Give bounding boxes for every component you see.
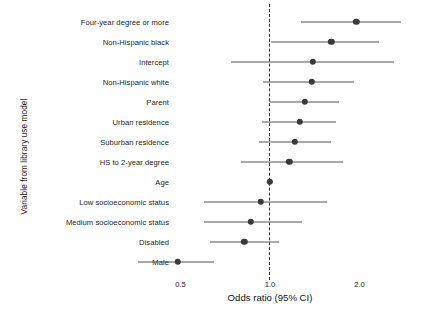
- confidence-interval-line: [204, 202, 327, 203]
- odds-ratio-point: [241, 239, 247, 245]
- forest-plot: Variable from library use model Four-yea…: [0, 0, 437, 317]
- odds-ratio-point: [286, 159, 292, 165]
- odds-ratio-point: [257, 199, 263, 205]
- odds-ratio-point: [308, 79, 314, 85]
- x-tick-label: 1.0: [265, 280, 276, 289]
- confidence-interval-line: [271, 42, 379, 43]
- x-tick-label: 0.5: [175, 280, 186, 289]
- x-axis-title: Odds ratio (95% CI): [172, 292, 368, 303]
- odds-ratio-point: [309, 59, 315, 65]
- odds-ratio-point: [291, 139, 297, 145]
- odds-ratio-point: [175, 259, 181, 265]
- odds-ratio-point: [302, 99, 308, 105]
- odds-ratio-point: [353, 19, 359, 25]
- x-tick-label: 2.0: [354, 280, 365, 289]
- confidence-interval-line: [241, 162, 343, 163]
- odds-ratio-point: [297, 119, 303, 125]
- confidence-interval-line: [301, 22, 401, 23]
- odds-ratio-point: [247, 219, 253, 225]
- plot-panel: [0, 0, 437, 280]
- odds-ratio-point: [267, 179, 273, 185]
- odds-ratio-point: [328, 39, 334, 45]
